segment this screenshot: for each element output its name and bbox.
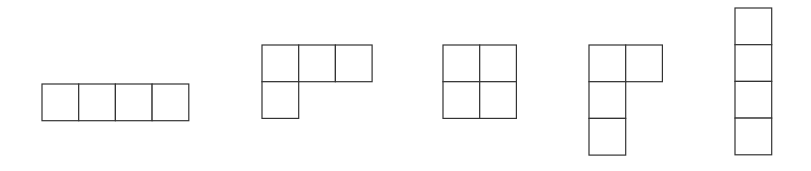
square-cell — [299, 45, 336, 82]
square-cell — [262, 45, 299, 82]
square-cell — [443, 45, 480, 82]
shape-straight-horizontal — [42, 84, 189, 121]
square-cell — [262, 82, 299, 119]
square-cell — [79, 84, 116, 121]
square-cell — [443, 82, 480, 119]
shape-straight-vertical — [735, 8, 772, 155]
square-cell — [735, 8, 772, 45]
shape-l-shape — [262, 45, 372, 118]
square-cell — [735, 45, 772, 82]
square-cell — [589, 118, 626, 155]
square-cell — [115, 84, 152, 121]
shapes-diagram — [0, 0, 811, 171]
square-cell — [626, 45, 663, 82]
square-cell — [42, 84, 79, 121]
shape-l-shape-vertical — [589, 45, 662, 155]
square-cell — [152, 84, 189, 121]
square-cell — [480, 45, 517, 82]
square-cell — [589, 82, 626, 119]
square-cell — [735, 81, 772, 118]
square-cell — [335, 45, 372, 82]
shape-square — [443, 45, 516, 118]
square-cell — [589, 45, 626, 82]
square-cell — [480, 82, 517, 119]
square-cell — [735, 118, 772, 155]
